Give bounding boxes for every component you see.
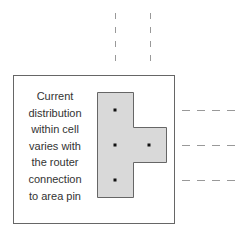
caption-line: the router	[15, 154, 95, 171]
connection-point-bottom	[114, 179, 117, 182]
caption-line: varies with	[15, 138, 95, 155]
caption-line: within cell	[15, 121, 95, 138]
caption-line: connection	[15, 171, 95, 188]
vertical-router-wires	[116, 13, 151, 68]
caption-text: Current distribution within cell varies …	[15, 88, 95, 204]
horizontal-router-wires	[182, 111, 242, 181]
caption-line: distribution	[15, 105, 95, 122]
connection-point-middle	[114, 144, 117, 147]
caption-line: Current	[15, 88, 95, 105]
connection-point-top	[114, 109, 117, 112]
connection-point-right	[148, 144, 151, 147]
caption-line: to area pin	[15, 188, 95, 205]
